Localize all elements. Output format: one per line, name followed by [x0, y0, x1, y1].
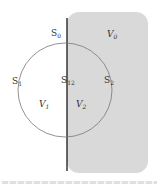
- label-v1: V1: [39, 99, 49, 110]
- caption-line: [2, 181, 157, 184]
- venn-region-diagram: S0V0S1S12S2V1V2: [0, 0, 159, 188]
- label-s1: S1: [12, 76, 22, 87]
- label-s0: S0: [51, 28, 61, 39]
